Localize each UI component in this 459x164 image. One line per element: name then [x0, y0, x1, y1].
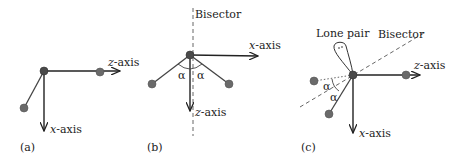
alpha-right: α: [197, 69, 205, 82]
panel-label-c: (c): [301, 141, 316, 154]
panel-label-b: (b): [147, 141, 163, 154]
bisector-label: Bisector: [378, 28, 425, 41]
alpha-left: α: [178, 69, 186, 82]
atom-right: [225, 80, 233, 88]
bond-right: [190, 55, 229, 84]
panel-a: z-axis x-axis (a): [20, 56, 140, 154]
x-axis-label: x-axis: [359, 127, 391, 140]
atom-z: [96, 68, 104, 76]
dotted-bond: [314, 75, 353, 81]
central-atom: [186, 51, 194, 59]
z-axis-label: z-axis: [194, 106, 227, 119]
atom-left: [310, 77, 318, 85]
angle-arc: [332, 79, 339, 91]
lone-pair-lobe: [334, 42, 353, 75]
panel-b: Bisector x-axis z-axis α α (b): [147, 8, 281, 154]
lone-pair-label: Lone pair: [316, 27, 370, 40]
central-atom: [40, 67, 48, 75]
bisector-line: [300, 33, 424, 107]
x-axis-arrow: [190, 55, 258, 56]
central-atom: [349, 71, 357, 79]
x-axis-label: x-axis: [50, 123, 82, 136]
alpha-lower: α: [330, 91, 338, 104]
bond: [24, 71, 44, 108]
atom-left: [148, 80, 156, 88]
panel-c: Bisector Lone pair z-axis x-axis α α (c): [300, 27, 446, 154]
panel-label-a: (a): [20, 141, 35, 154]
z-axis-label: z-axis: [413, 59, 446, 72]
z-axis-label: z-axis: [107, 56, 140, 69]
lone-pair-electron: [341, 46, 343, 48]
bisector-label: Bisector: [195, 8, 242, 21]
atom-z: [402, 71, 410, 79]
atom-lower: [325, 110, 333, 118]
molecular-geometry-diagram: z-axis x-axis (a) Bisector x-axis z-axis…: [0, 0, 459, 164]
x-axis-label: x-axis: [249, 39, 281, 52]
lone-pair-electron: [338, 47, 340, 49]
atom-lower-left: [20, 104, 28, 112]
